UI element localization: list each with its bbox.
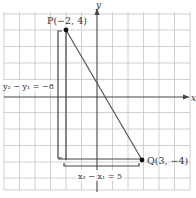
point-q bbox=[140, 158, 145, 163]
x-axis-label: x bbox=[191, 93, 196, 103]
coordinate-plane-figure: x y P(−2, 4) Q(3, −4) y₂ − y₁ = −8 x₂ − … bbox=[0, 0, 196, 198]
horizontal-change-label: x₂ − x₁ = 5 bbox=[78, 172, 122, 181]
x-axis-arrow-icon bbox=[183, 95, 190, 100]
point-p bbox=[64, 28, 69, 33]
y-axis-label: y bbox=[95, 0, 102, 10]
vertical-change-label: y₂ − y₁ = −8 bbox=[2, 82, 54, 91]
vertical-change-bracket bbox=[58, 31, 62, 158]
point-q-label: Q(3, −4) bbox=[147, 155, 188, 166]
segment-pq bbox=[66, 30, 142, 160]
point-p-label: P(−2, 4) bbox=[47, 15, 87, 26]
